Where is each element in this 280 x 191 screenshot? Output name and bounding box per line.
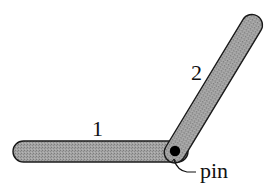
diagram-svg: 1 2 pin: [0, 0, 280, 191]
rod-2: [160, 11, 266, 167]
linkage-diagram: 1 2 pin: [0, 0, 280, 191]
rod-2-label: 2: [191, 60, 202, 85]
rod-1: [13, 141, 188, 162]
rod-1-label: 1: [92, 116, 103, 141]
pin-joint: [170, 146, 180, 156]
pin-label: pin: [200, 158, 228, 183]
